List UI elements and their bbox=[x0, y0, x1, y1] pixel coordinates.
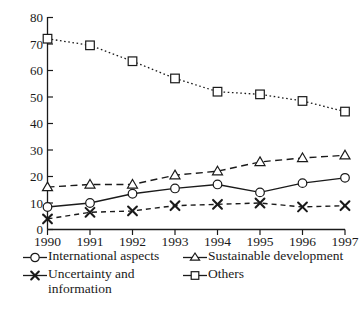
triangle-marker-icon bbox=[182, 249, 208, 266]
plot-area: 0 10 20 30 40 50 60 70 80 1990 1991 1992 bbox=[0, 0, 360, 248]
y-tick-label: 20 bbox=[30, 169, 43, 184]
line-chart: 0 10 20 30 40 50 60 70 80 1990 1991 1992 bbox=[0, 0, 360, 311]
y-tick-marks bbox=[48, 18, 54, 230]
y-tick-label: 40 bbox=[30, 116, 43, 131]
x-tick-label: 1995 bbox=[247, 234, 274, 248]
data-point bbox=[255, 157, 265, 166]
y-tick-label: 60 bbox=[30, 63, 43, 78]
y-tick-label: 30 bbox=[30, 143, 43, 158]
x-tick-label: 1990 bbox=[34, 234, 61, 248]
data-point bbox=[298, 179, 307, 188]
data-point bbox=[340, 150, 350, 159]
legend-row-2: Uncertainty and information Others bbox=[0, 266, 360, 296]
data-point bbox=[171, 184, 180, 193]
legend-label: International aspects bbox=[48, 248, 159, 263]
data-point bbox=[256, 90, 265, 99]
legend-item-sustainable-development[interactable]: Sustainable development bbox=[180, 248, 360, 266]
data-point bbox=[86, 199, 95, 208]
x-tick-label: 1997 bbox=[332, 234, 359, 248]
y-tick-labels: 0 10 20 30 40 50 60 70 80 bbox=[30, 10, 43, 237]
y-tick-label: 10 bbox=[30, 196, 43, 211]
data-point bbox=[128, 57, 137, 66]
data-point bbox=[298, 97, 307, 106]
data-point bbox=[341, 174, 350, 183]
data-point bbox=[43, 34, 52, 43]
legend-row-1: International aspects Sustainable develo… bbox=[0, 248, 360, 266]
data-point bbox=[341, 201, 350, 210]
legend-item-international-aspects[interactable]: International aspects bbox=[0, 248, 180, 266]
data-point bbox=[86, 41, 95, 50]
legend-item-others[interactable]: Others bbox=[180, 266, 360, 296]
series-others bbox=[43, 34, 349, 115]
data-point bbox=[213, 180, 222, 189]
data-point bbox=[171, 201, 180, 210]
data-point bbox=[43, 203, 52, 212]
data-point bbox=[341, 107, 350, 116]
y-tick-label: 50 bbox=[30, 90, 43, 105]
y-tick-label: 70 bbox=[30, 37, 43, 52]
x-tick-label: 1993 bbox=[162, 234, 189, 248]
x-tick-labels: 1990 1991 1992 1993 1994 1995 1996 1997 bbox=[34, 234, 359, 248]
data-point bbox=[213, 87, 222, 96]
data-point bbox=[128, 189, 137, 198]
x-tick-label: 1996 bbox=[289, 234, 316, 248]
data-point bbox=[256, 188, 265, 197]
square-marker-icon bbox=[182, 267, 208, 284]
x-tick-label: 1994 bbox=[204, 234, 231, 248]
series-layer bbox=[43, 34, 351, 223]
legend-label: Others bbox=[208, 266, 244, 281]
legend-label: Uncertainty and information bbox=[48, 266, 135, 296]
data-point bbox=[298, 153, 308, 162]
y-tick-label: 80 bbox=[30, 10, 43, 25]
x-tick-label: 1991 bbox=[77, 234, 104, 248]
legend-item-uncertainty-information[interactable]: Uncertainty and information bbox=[0, 266, 180, 296]
x-marker-icon bbox=[22, 267, 48, 284]
x-tick-label: 1992 bbox=[119, 234, 146, 248]
data-point bbox=[171, 74, 180, 83]
chart-legend: International aspects Sustainable develo… bbox=[0, 248, 360, 311]
circle-marker-icon bbox=[22, 249, 48, 266]
legend-label: Sustainable development bbox=[208, 248, 343, 263]
